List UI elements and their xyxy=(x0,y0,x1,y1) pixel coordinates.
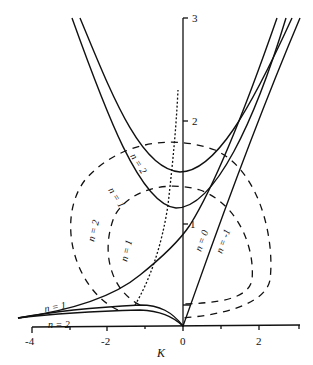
x-tick-label-2: 2 xyxy=(256,335,262,347)
y-tick-label-2: 2 xyxy=(192,115,198,127)
label-loop-n2: n = 2 xyxy=(85,219,101,243)
label-loop-n1: n = 1 xyxy=(118,239,134,263)
dispersion-chart: 3 2 1 -4 -2 0 2 K n = 1 n = 2 n = 2 n = … xyxy=(0,0,313,365)
label-upper-n1: n = 1 xyxy=(106,185,127,209)
curve-n1-upper xyxy=(72,18,286,208)
x-axis-title: K xyxy=(156,346,166,360)
curve-n-minus1 xyxy=(183,18,300,326)
label-lower-n2: n = 2 xyxy=(48,319,70,330)
x-tick-label-minus4: -4 xyxy=(25,335,35,347)
label-n0: n = 0 xyxy=(193,228,211,252)
y-tick-label-3: 3 xyxy=(192,12,198,24)
x-tick-label-minus2: -2 xyxy=(101,335,110,347)
curve-n2-lower xyxy=(18,310,183,326)
x-tick-label-0: 0 xyxy=(180,335,186,347)
x-axis xyxy=(32,325,300,327)
